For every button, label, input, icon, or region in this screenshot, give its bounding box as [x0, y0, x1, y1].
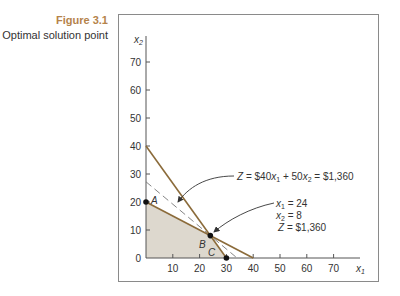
- svg-text:20: 20: [130, 197, 142, 208]
- svg-text:30: 30: [130, 169, 142, 180]
- svg-text:10: 10: [130, 225, 142, 236]
- svg-text:30: 30: [221, 263, 233, 274]
- svg-text:70: 70: [130, 57, 142, 68]
- svg-text:10: 10: [167, 263, 179, 274]
- point-c-marker: [224, 255, 230, 261]
- svg-text:20: 20: [194, 263, 206, 274]
- point-a-label: A: [150, 195, 158, 206]
- svg-text:70: 70: [328, 263, 340, 274]
- x-axis-label: x1: [355, 263, 365, 275]
- y-tick-labels: 0 10 20 30 40 50 60 70: [130, 57, 142, 264]
- solution-arrow: [214, 203, 274, 232]
- y-axis-label: x2: [133, 34, 143, 46]
- point-a-marker: [143, 199, 149, 205]
- point-b-label: B: [199, 239, 206, 250]
- chart: 0 10 20 30 40 50 60 70 10 20 30 40 50 60…: [0, 0, 400, 296]
- point-c-label: C: [208, 247, 216, 258]
- point-b-marker: [208, 233, 214, 239]
- objective-arrow: [178, 176, 234, 202]
- x-tick-labels: 10 20 30 40 50 60 70: [167, 263, 339, 274]
- solution-x1: x1 = 24: [275, 198, 308, 210]
- svg-text:40: 40: [130, 141, 142, 152]
- svg-text:50: 50: [274, 263, 286, 274]
- solution-x2: x2 = 8: [275, 210, 302, 222]
- svg-text:60: 60: [301, 263, 313, 274]
- solution-z: Z = $1,360: [277, 222, 327, 233]
- svg-text:60: 60: [130, 85, 142, 96]
- svg-text:0: 0: [135, 253, 141, 264]
- svg-text:40: 40: [248, 263, 260, 274]
- svg-text:50: 50: [130, 113, 142, 124]
- objective-annotation: Z = $40x1 + 50x2 = $1,360: [236, 171, 354, 183]
